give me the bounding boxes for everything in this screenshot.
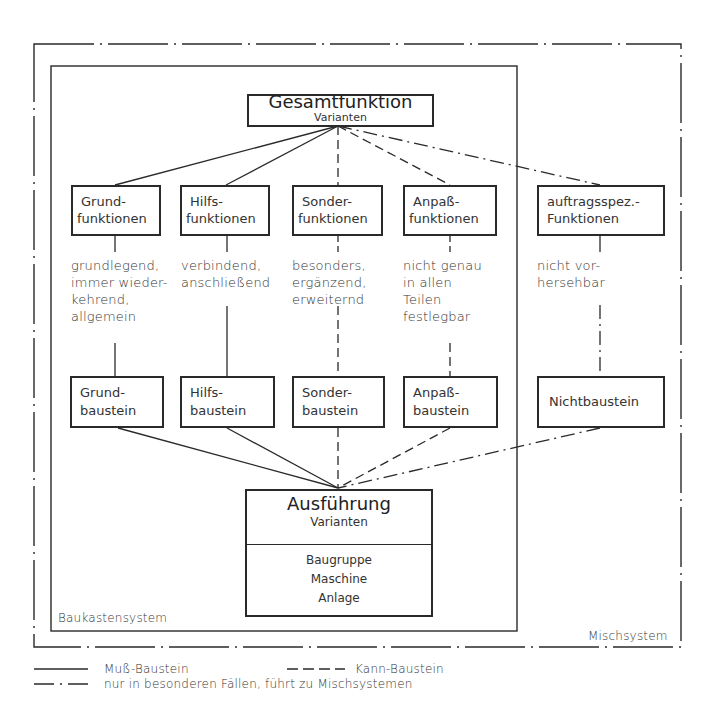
ausfuehrung-divider [247, 544, 431, 545]
link-hilfs-ausf [227, 428, 338, 488]
building-block-anpass: Anpaß- baustein [403, 376, 498, 428]
building-block-grund: Grund- baustein [70, 376, 164, 428]
function-box-auftragsspez: auftragsspez.- Funktionen [537, 185, 665, 236]
mischsystem-label: Mischsystem [588, 628, 668, 645]
ausfuehrung-title: Ausführung [247, 493, 431, 515]
link-gesamt-auftrag [338, 126, 600, 185]
gesamtfunktion-subtitle: Varianten [249, 111, 432, 124]
legend-dashdot-label: nur in besonderen Fällen, führt zu Misch… [104, 676, 413, 693]
description-grund: grundlegend, immer wieder- kehrend, allg… [71, 257, 168, 325]
description-anpass: nicht genau in allen Teilen festlegbar [403, 257, 482, 325]
baukastensystem-label: Baukastensystem [58, 610, 167, 627]
link-gesamt-anpass [338, 126, 450, 185]
function-box-anpass: Anpaß- funktionen [403, 185, 497, 236]
function-box-hilfs: Hilfs- funktionen [180, 185, 270, 236]
description-sonder: besonders, ergänzend, erweiternd [292, 257, 367, 308]
building-block-nicht: Nichtbaustein [537, 376, 665, 428]
link-gesamt-grund [115, 126, 338, 185]
ausfuehrung-box: Ausführung Varianten Baugruppe Maschine … [245, 489, 433, 617]
building-block-hilfs: Hilfs- baustein [180, 376, 275, 428]
function-box-grund: Grund- funktionen [71, 185, 161, 236]
gesamtfunktion-box: Gesamtfunktion Varianten [247, 94, 434, 127]
function-box-sonder: Sonder- funktionen [292, 185, 383, 236]
link-nicht-ausf [338, 428, 600, 488]
link-anpass-ausf [338, 428, 450, 488]
gesamtfunktion-title: Gesamtfunktion [249, 92, 432, 112]
description-hilfs: verbindend, anschließend [181, 257, 270, 291]
link-gesamt-hilfs [226, 126, 338, 185]
ausfuehrung-subtitle: Varianten [247, 515, 431, 530]
description-auftragsspez: nicht vor- hersehbar [537, 257, 605, 291]
link-grund-ausf [118, 428, 338, 488]
building-block-sonder: Sonder- baustein [292, 376, 385, 428]
